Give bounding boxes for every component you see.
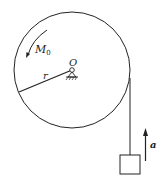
acceleration-label: a [150,139,156,150]
center-label: O [69,57,77,68]
pin-support-icon [66,68,78,80]
hanging-block [120,155,140,174]
acceleration-arrow-icon [143,128,148,161]
moment-label: M0 [34,43,51,57]
pulley-diagram: M0 O r a [0,0,163,187]
